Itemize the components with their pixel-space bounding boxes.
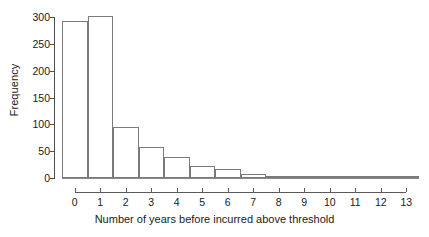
y-axis-tick-label: 300: [32, 11, 50, 23]
y-axis-tick-mark: [50, 124, 54, 125]
histogram-bar: [190, 166, 216, 178]
x-axis-tick-label: 6: [225, 196, 231, 208]
x-axis-tick-mark: [381, 188, 382, 192]
x-axis-tick-mark: [75, 188, 76, 192]
histogram-bar: [88, 16, 114, 178]
x-axis-tick-label: 9: [301, 196, 307, 208]
x-axis-tick-mark: [279, 188, 280, 192]
plot-area: [62, 17, 419, 178]
x-axis-tick-mark: [177, 188, 178, 192]
x-axis-tick-mark: [406, 188, 407, 192]
histogram-bar: [164, 157, 190, 178]
y-axis-tick-label: 250: [32, 38, 50, 50]
x-axis-tick-mark: [304, 188, 305, 192]
y-axis-tick-label: 50: [38, 145, 50, 157]
x-axis-tick-label: 0: [72, 196, 78, 208]
x-axis-tick-label: 13: [400, 196, 412, 208]
histogram-bar: [113, 127, 139, 178]
x-axis-tick-label: 1: [97, 196, 103, 208]
y-axis-tick-mark: [50, 71, 54, 72]
x-axis-tick-label: 3: [148, 196, 154, 208]
histogram-bar: [215, 169, 241, 178]
y-axis-title-text: Frequency: [8, 64, 20, 117]
x-axis-tick-mark: [151, 188, 152, 192]
plot-baseline: [62, 178, 419, 179]
y-axis-tick-label: 100: [32, 118, 50, 130]
x-axis-tick-mark: [355, 188, 356, 192]
x-axis-tick-label: 7: [250, 196, 256, 208]
x-axis-tick-mark: [202, 188, 203, 192]
x-axis-tick-label: 11: [350, 196, 361, 208]
x-axis-tick-label: 12: [375, 196, 387, 208]
x-axis-tick-label: 2: [123, 196, 129, 208]
histogram-chart: Frequency 050100150200250300 Number of y…: [0, 0, 429, 237]
y-axis-tick-label: 200: [32, 65, 50, 77]
y-axis-tick-mark: [50, 98, 54, 99]
x-axis-title: Number of years before incurred above th…: [0, 213, 429, 225]
y-axis-tick-mark: [50, 178, 54, 179]
x-axis-tick-label: 10: [324, 196, 336, 208]
x-axis-tick-mark: [126, 188, 127, 192]
histogram-bar: [139, 147, 165, 178]
y-axis-line: [54, 17, 55, 179]
x-axis-line: [75, 192, 407, 193]
x-axis-tick-mark: [253, 188, 254, 192]
y-axis-tick-mark: [50, 44, 54, 45]
y-axis-tick-label: 150: [32, 92, 50, 104]
x-axis-tick-mark: [228, 188, 229, 192]
x-axis-tick-mark: [330, 188, 331, 192]
x-axis-tick-label: 5: [199, 196, 205, 208]
y-axis-title: Frequency: [6, 0, 22, 180]
y-axis-tick-mark: [50, 151, 54, 152]
x-axis-tick-label: 8: [276, 196, 282, 208]
x-axis-tick-mark: [100, 188, 101, 192]
y-axis-tick-mark: [50, 17, 54, 18]
y-axis-tick-labels: 050100150200250300: [22, 0, 50, 237]
histogram-bar: [62, 21, 88, 178]
x-axis-tick-label: 4: [174, 196, 180, 208]
